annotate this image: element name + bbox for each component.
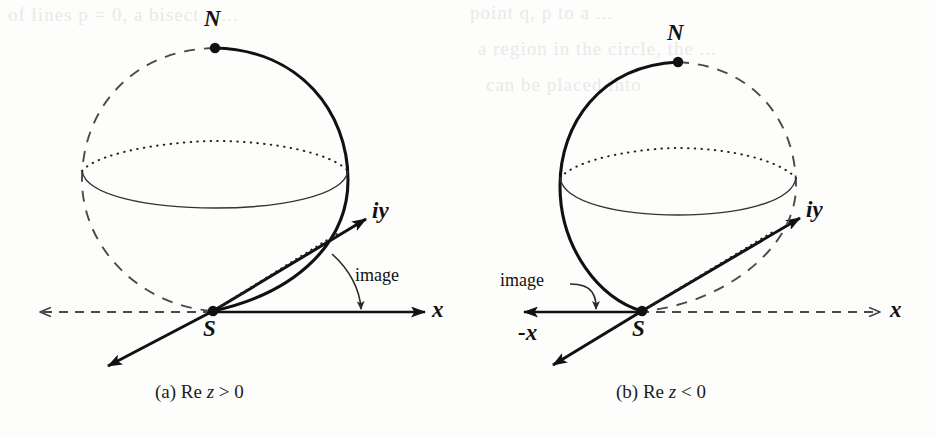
figure-b-negative-x-axis-label: -x [518,320,537,346]
figure-a-dashed-meridian [82,48,215,311]
figure-a-caption: (a) Re z > 0 [155,381,244,403]
figure-a-group [40,43,425,366]
figure-a-caption-relation: > 0 [219,381,244,402]
figure-b-caption: (b) Re z < 0 [616,381,706,403]
figure-b-negative-iy-axis [553,311,642,365]
figure-a-caption-body: Re [181,381,202,402]
figure-b-group [524,57,880,365]
figure-b-projection-ray-dotted [645,230,776,309]
figure-a-north-pole-dot [210,43,220,53]
figure-b-north-pole-dot [673,57,683,67]
figure-page: of lines p = 0, a bisect p ... point q, … [0,0,936,437]
figure-a-negative-iy-axis [108,311,213,366]
figure-b-caption-variable: z [669,381,676,402]
figure-b-dashed-meridian [642,62,796,311]
figure-b-iy-axis-label: iy [806,197,823,223]
figure-b-image-pointer-arc [592,292,596,309]
figure-a-caption-prefix: (a) [155,381,176,402]
figure-b-equator-front-solid [560,178,796,215]
figure-b-south-pole-dot [637,306,647,316]
figure-a-caption-variable: z [207,381,214,402]
figure-a-equator-front-solid [82,171,348,208]
figure-a-x-axis-label: x [432,297,444,323]
figure-a-south-pole-label: S [203,316,216,342]
figure-b-caption-body: Re [643,381,664,402]
figure-b-north-pole-label: N [667,20,684,46]
figure-b-x-axis-label: x [890,297,902,323]
figure-canvas [0,0,936,437]
figure-b-equator-back-dotted [560,148,796,178]
figure-b-caption-relation: < 0 [681,381,706,402]
figure-a-image-label: image [355,265,399,286]
figure-b-south-pole-label: S [632,316,645,342]
figure-a-south-pole-dot [208,306,218,316]
figure-b-image-pointer-tail [570,284,592,292]
figure-a-equator-back-dotted [82,141,348,171]
figure-b-solid-meridian [560,62,678,311]
figure-b-caption-prefix: (b) [616,381,638,402]
figure-b-image-label: image [500,270,544,291]
figure-a-iy-axis-label: iy [372,198,389,224]
figure-a-north-pole-label: N [204,6,221,32]
